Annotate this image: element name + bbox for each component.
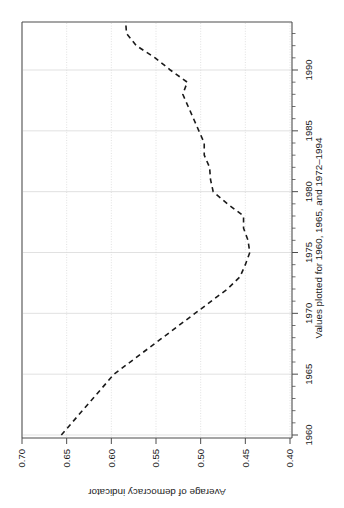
value-tick-label: 0.65 <box>61 449 72 468</box>
value-tick-label: 0.40 <box>284 449 295 468</box>
democracy-indicator-line-chart: 1960196519701975198019851990 0.400.450.5… <box>0 0 344 508</box>
value-tick-label: 0.50 <box>195 449 206 468</box>
chart-container: 1960196519701975198019851990 0.400.450.5… <box>0 0 344 508</box>
value-tick-label: 0.55 <box>150 449 161 468</box>
year-tick-label: 1990 <box>303 59 314 80</box>
y-axis-title: Average of democracy indicator <box>87 487 225 498</box>
value-tick-label: 0.60 <box>106 449 117 468</box>
year-tick-label: 1960 <box>303 424 314 445</box>
chart-page: 1960196519701975198019851990 0.400.450.5… <box>0 0 344 508</box>
x-axis-title: Values plotted for 1960, 1965, and 1972–… <box>313 137 324 338</box>
year-tick-label: 1965 <box>303 364 314 385</box>
value-tick-label: 0.45 <box>240 449 251 468</box>
value-tick-label: 0.70 <box>16 449 27 468</box>
